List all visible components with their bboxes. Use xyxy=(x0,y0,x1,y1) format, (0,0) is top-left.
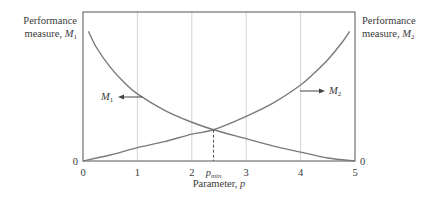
plot-frame xyxy=(83,12,355,161)
m2-label-group: M2 xyxy=(300,85,342,98)
x-tick-label-0: 0 xyxy=(80,167,85,178)
x-tick-label-5: 5 xyxy=(352,167,357,178)
x-tick-label-2: 2 xyxy=(189,167,194,178)
right-axis-zero-label: 0 xyxy=(360,156,365,167)
left-axis-zero-label: 0 xyxy=(73,156,78,167)
x-tick-label-4: 4 xyxy=(298,167,304,178)
m1-arrow-head-icon xyxy=(118,95,124,100)
series-line-m1 xyxy=(88,31,355,161)
gridlines xyxy=(137,12,300,161)
m1-label: M1 xyxy=(100,91,114,104)
right-axis-label-line2: measure, M2 xyxy=(362,28,415,41)
left-axis-label-line1: Performance xyxy=(23,15,77,26)
performance-chart: pmin 012345 Performance measure, M1 Perf… xyxy=(0,0,440,197)
x-tick-label-3: 3 xyxy=(244,167,249,178)
left-axis-label-line2: measure, M1 xyxy=(25,28,78,41)
m2-arrow-head-icon xyxy=(319,89,325,94)
right-axis-label-line1: Performance xyxy=(362,15,416,26)
m2-label: M2 xyxy=(328,85,342,98)
x-tick-label-1: 1 xyxy=(135,167,140,178)
x-axis-title: Parameter, p xyxy=(193,178,246,189)
